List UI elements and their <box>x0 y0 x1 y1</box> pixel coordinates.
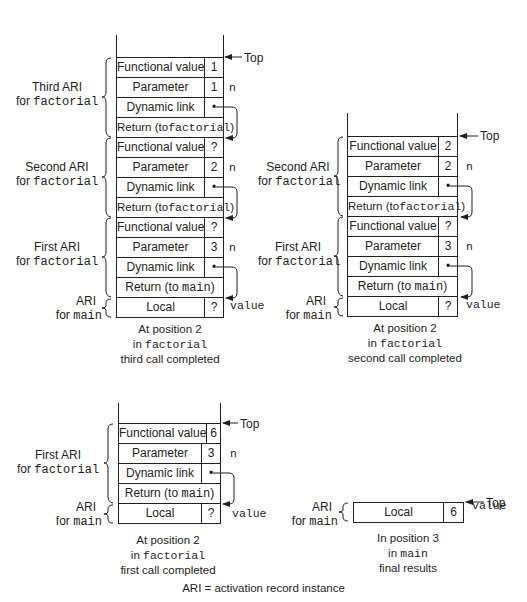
diagram-lines <box>0 0 527 602</box>
brace-icon <box>334 217 343 296</box>
brace-icon <box>339 503 348 521</box>
brace-icon <box>102 58 111 137</box>
dynamic-link-arrow-icon <box>216 187 237 218</box>
dynamic-link-arrow-icon <box>450 266 472 297</box>
dynamic-link-arrow-icon <box>450 186 472 217</box>
brace-icon <box>102 218 111 297</box>
brace-icon <box>104 505 113 523</box>
brace-icon <box>334 137 343 216</box>
brace-icon <box>104 424 113 503</box>
dynamic-link-arrow-icon <box>216 267 237 298</box>
brace-icon <box>334 298 343 316</box>
dynamic-link-arrow-icon <box>216 107 237 138</box>
brace-icon <box>102 299 111 317</box>
dynamic-link-arrow-icon <box>213 473 234 504</box>
brace-icon <box>102 138 111 217</box>
